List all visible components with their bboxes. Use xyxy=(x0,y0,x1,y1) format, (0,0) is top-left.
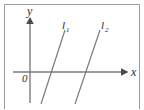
y-axis xyxy=(26,17,34,103)
x-axis-arrow-icon xyxy=(121,68,129,76)
coordinate-plane-figure: y x 0 l 1 l 2 xyxy=(0,0,144,110)
figure-container: y x 0 l 1 l 2 xyxy=(0,0,144,110)
line-label-l2-letter: l xyxy=(101,19,104,31)
line-label-l1-subscript: 1 xyxy=(66,26,70,34)
origin-label: 0 xyxy=(22,72,28,84)
figure-border xyxy=(5,5,140,110)
line-label-l1-letter: l xyxy=(62,19,65,31)
line-label-l1: l 1 xyxy=(62,19,70,34)
line-label-l2: l 2 xyxy=(101,19,109,34)
graph-line-l1 xyxy=(41,30,65,104)
y-axis-arrow-icon xyxy=(26,17,34,24)
graph-line-l2 xyxy=(75,30,100,104)
line-label-l2-subscript: 2 xyxy=(105,26,109,34)
y-axis-label: y xyxy=(26,4,33,18)
x-axis-label: x xyxy=(130,65,137,79)
